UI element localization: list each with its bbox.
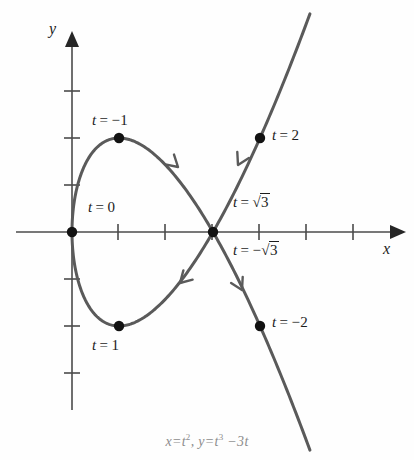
radical-glyph: √3 [261, 243, 279, 258]
y-axis-label: y [49, 20, 56, 38]
arrow-upper-branch [165, 155, 178, 167]
curve-point-dot [208, 227, 218, 237]
figure-caption: x=t2, y=t3 −3t [0, 432, 414, 450]
label-t-2: t=2 [272, 128, 299, 143]
curve-point-dot [114, 133, 124, 143]
label-t-minus-sqrt3: t=−√3 [233, 243, 279, 258]
curve-point-dot [67, 227, 77, 237]
caption-text: x=t2, y=t3 −3t [165, 434, 248, 449]
label-t-minus-2: t=−2 [272, 315, 308, 330]
label-t-minus-1: t=−1 [92, 113, 128, 128]
curve-point-dot [114, 321, 124, 331]
label-t-1: t=1 [92, 338, 119, 353]
curve-point-dot [255, 133, 265, 143]
y-axis-arrowhead [65, 31, 79, 47]
label-t-sqrt3: t=√3 [233, 195, 270, 210]
radical-glyph: √3 [252, 195, 270, 210]
curve-point-dot [255, 321, 265, 331]
label-t-0: t=0 [88, 200, 115, 215]
x-axis-label: x [383, 240, 390, 258]
figure-container: x y t=−1t=0t=1t=2t=−2t=√3t=−√3 x=t2, y=t… [0, 0, 414, 460]
x-axis-arrowhead [390, 225, 406, 239]
parametric-curve-svg [0, 0, 414, 460]
